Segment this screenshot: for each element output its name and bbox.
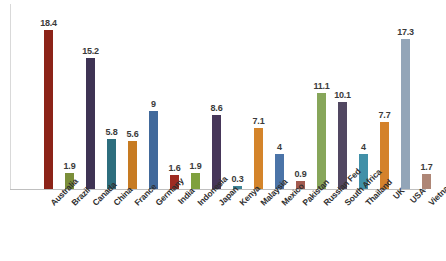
- bar-group: 8.6: [206, 4, 227, 189]
- bar-value-label: 8.6: [206, 103, 227, 113]
- bar-group: 0.9: [290, 4, 311, 189]
- category-labels: AustraliaBrazilCanadaChinaFranceGermanyI…: [10, 190, 426, 261]
- bar: [44, 30, 53, 189]
- bar-group: 18.4: [38, 4, 59, 189]
- bar-group: 0.3: [227, 4, 248, 189]
- bar-value-label: 11.1: [311, 81, 332, 91]
- bar: [422, 174, 431, 189]
- bar-value-label: 0.9: [290, 169, 311, 179]
- bar-value-label: 15.2: [80, 46, 101, 56]
- bar-value-label: 1.9: [59, 161, 80, 171]
- bar-group: 10.1: [332, 4, 353, 189]
- bar: [191, 173, 200, 189]
- bar-value-label: 18.4: [38, 18, 59, 28]
- bar-value-label: 0.3: [227, 174, 248, 184]
- bar: [86, 58, 95, 189]
- bar-group: 5.6: [122, 4, 143, 189]
- bar-value-label: 5.6: [122, 129, 143, 139]
- plot-area: 18.41.915.25.85.691.61.98.60.37.140.911.…: [10, 4, 426, 189]
- bar-group: 15.2: [80, 4, 101, 189]
- bar-group: 1.9: [185, 4, 206, 189]
- bar-value-label: 1.6: [164, 163, 185, 173]
- bar-group: 7.1: [248, 4, 269, 189]
- category-label: Australia: [44, 190, 67, 213]
- bar-group: 1.9: [59, 4, 80, 189]
- bar-chart: 18.41.915.25.85.691.61.98.60.37.140.911.…: [0, 0, 446, 261]
- bar-value-label: 5.8: [101, 127, 122, 137]
- bar-value-label: 9: [143, 99, 164, 109]
- bar-value-label: 17.3: [395, 27, 416, 37]
- bar-value-label: 7.1: [248, 116, 269, 126]
- bar-value-label: 7.7: [374, 110, 395, 120]
- bar: [128, 141, 137, 189]
- bar-value-label: 4: [269, 142, 290, 152]
- bar: [254, 128, 263, 189]
- bars-layer: 18.41.915.25.85.691.61.98.60.37.140.911.…: [10, 4, 426, 189]
- bar-group: 9: [143, 4, 164, 189]
- bar-group: 5.8: [101, 4, 122, 189]
- bar-value-label: 4: [353, 142, 374, 152]
- bar-group: 4: [353, 4, 374, 189]
- bar: [149, 111, 158, 189]
- bar-value-label: 10.1: [332, 90, 353, 100]
- bar: [317, 93, 326, 189]
- bar-group: 4: [269, 4, 290, 189]
- bar-group: 11.1: [311, 4, 332, 189]
- bar: [401, 39, 410, 189]
- bar-group: 1.6: [164, 4, 185, 189]
- bar-group: 17.3: [395, 4, 416, 189]
- bar-group: 1.7: [416, 4, 437, 189]
- bar-group: 7.7: [374, 4, 395, 189]
- bar-value-label: 1.7: [416, 162, 437, 172]
- bar-value-label: 1.9: [185, 161, 206, 171]
